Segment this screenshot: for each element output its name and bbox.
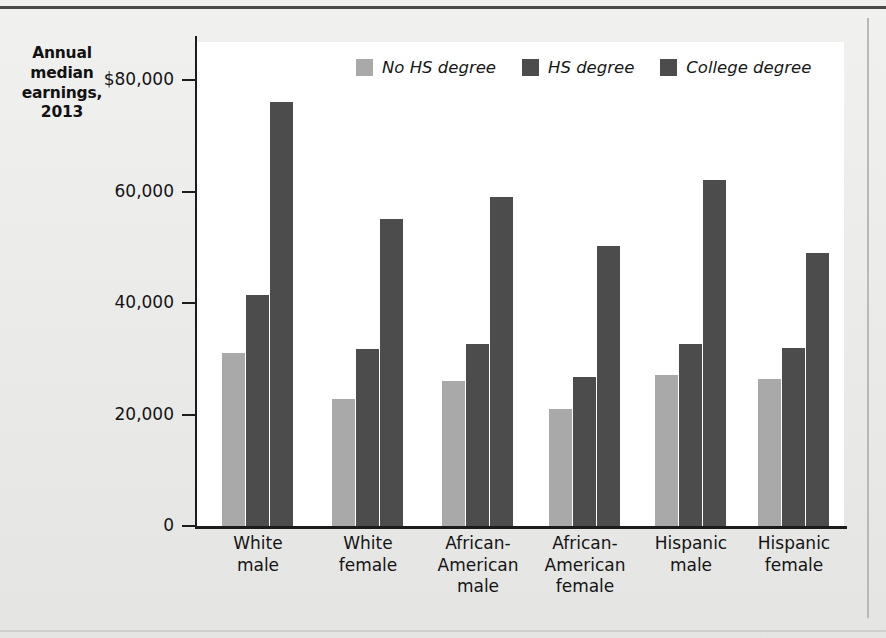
x-tick-label: Hispanicfemale [735, 533, 853, 576]
x-tick-label-line: Hispanic [735, 533, 853, 555]
x-tick-label-line: American [419, 555, 537, 577]
chart-legend: No HS degreeHS degreeCollege degree [356, 58, 811, 77]
figure-page: Annualmedianearnings,2013 $80,00060,0004… [0, 0, 886, 638]
legend-label: College degree [686, 58, 811, 77]
x-axis-labels: WhitemaleWhitefemaleAfrican-Americanmale… [197, 533, 847, 633]
x-tick-label-line: White [309, 533, 427, 555]
x-tick-label-line: Hispanic [632, 533, 750, 555]
y-tick-label: 20,000 [54, 404, 174, 424]
y-tick-label: 40,000 [54, 292, 174, 312]
legend-label: No HS degree [382, 58, 496, 77]
y-tick-label: 60,000 [54, 181, 174, 201]
x-tick-label-line: male [419, 576, 537, 598]
bar-series-container [197, 0, 847, 526]
bar[interactable] [442, 381, 465, 526]
legend-swatch-icon [356, 59, 373, 76]
bar-group [549, 0, 621, 526]
bar[interactable] [332, 399, 355, 526]
bar-group [758, 0, 830, 526]
y-tick-mark [182, 414, 196, 416]
bar-group [332, 0, 404, 526]
bar[interactable] [246, 295, 269, 526]
y-axis-title-line: Annual [6, 44, 118, 64]
bar[interactable] [270, 102, 293, 526]
x-tick-label-line: male [632, 555, 750, 577]
bar[interactable] [655, 375, 678, 526]
x-tick-label: Whitefemale [309, 533, 427, 576]
bar[interactable] [222, 353, 245, 526]
bar-group [655, 0, 727, 526]
x-tick-label-line: female [735, 555, 853, 577]
x-tick-label: Whitemale [199, 533, 317, 576]
bar-group [222, 0, 294, 526]
bar[interactable] [573, 377, 596, 526]
legend-item[interactable]: No HS degree [356, 58, 496, 77]
x-tick-label: African-Americanmale [419, 533, 537, 598]
bar[interactable] [679, 344, 702, 526]
x-tick-label: African-Americanfemale [526, 533, 644, 598]
x-tick-label-line: male [199, 555, 317, 577]
bar[interactable] [782, 348, 805, 526]
x-tick-label-line: female [526, 576, 644, 598]
bar[interactable] [758, 379, 781, 526]
legend-item[interactable]: College degree [660, 58, 811, 77]
legend-swatch-icon [522, 59, 539, 76]
bar[interactable] [806, 253, 829, 526]
x-tick-label-line: White [199, 533, 317, 555]
legend-label: HS degree [548, 58, 634, 77]
x-tick-label-line: American [526, 555, 644, 577]
page-right-rule [867, 18, 869, 618]
x-tick-label-line: African- [526, 533, 644, 555]
y-tick-mark [182, 191, 196, 193]
bar[interactable] [466, 344, 489, 526]
bar[interactable] [703, 180, 726, 526]
x-tick-label-line: African- [419, 533, 537, 555]
bar[interactable] [490, 197, 513, 526]
legend-swatch-icon [660, 59, 677, 76]
y-axis-title-line: 2013 [6, 103, 118, 123]
y-tick-label: $80,000 [54, 69, 174, 89]
legend-item[interactable]: HS degree [522, 58, 634, 77]
y-tick-mark [182, 79, 196, 81]
x-tick-label-line: female [309, 555, 427, 577]
bar-group [442, 0, 514, 526]
x-axis-line [195, 526, 847, 529]
bar[interactable] [380, 219, 403, 526]
x-tick-label: Hispanicmale [632, 533, 750, 576]
bar[interactable] [549, 409, 572, 526]
y-tick-mark [182, 525, 196, 527]
bar[interactable] [597, 246, 620, 526]
bar[interactable] [356, 349, 379, 526]
y-tick-label: 0 [54, 515, 174, 535]
y-tick-mark [182, 302, 196, 304]
